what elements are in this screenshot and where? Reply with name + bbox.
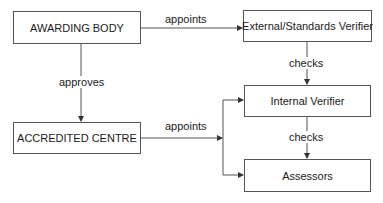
edge-label-appoints-external: appoints bbox=[165, 13, 207, 25]
node-assessors: Assessors bbox=[244, 159, 371, 192]
node-awarding-body: AWARDING BODY bbox=[13, 11, 141, 44]
node-external-verifier: External/Standards Verifier bbox=[243, 10, 372, 42]
node-internal-verifier: Internal Verifier bbox=[244, 85, 371, 117]
node-accredited-centre: ACCREDITED CENTRE bbox=[13, 122, 141, 154]
edge-label-checks-internal: checks bbox=[288, 57, 324, 69]
edge-label-checks-assessors: checks bbox=[288, 131, 324, 143]
edge-label-approves: approves bbox=[58, 76, 105, 88]
edge-label-appoints-staff: appoints bbox=[165, 120, 207, 132]
